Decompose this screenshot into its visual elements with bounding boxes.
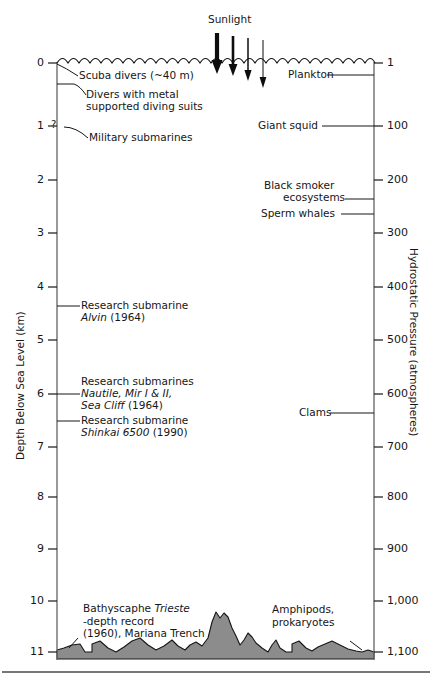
- right-tick-900: 900: [387, 542, 408, 555]
- right-axis-title: Hydrostatic Pressure (atmospheres): [408, 248, 420, 436]
- metal-suit-divers-label-line2: supported diving suits: [86, 101, 203, 113]
- sperm-whales-label: Sperm whales: [261, 208, 335, 220]
- giant-squid-label: Giant squid: [258, 120, 318, 132]
- left-tick-11: 11: [18, 645, 44, 658]
- nautile-label-line3: Sea Cliff (1964): [81, 400, 163, 412]
- sea-cliff-year: (1964): [125, 399, 163, 411]
- metal-suit-divers-label-line1: Divers with metal: [86, 89, 179, 101]
- trieste-label-line3: (1960), Mariana Trench: [83, 628, 205, 640]
- left-tick-2: 2: [22, 173, 44, 186]
- trieste-label-line2: -depth record: [83, 616, 154, 628]
- left-tick-1: 1: [22, 119, 44, 132]
- nautile-label-line2: Nautile, Mir I & II,: [81, 388, 172, 400]
- alvin-name: Alvin: [81, 311, 107, 323]
- leader-scuba-divers: [57, 64, 78, 76]
- right-tick-200: 200: [387, 173, 408, 186]
- left-tick-9: 9: [22, 542, 44, 555]
- black-smoker-label-line1: Black smoker: [264, 180, 334, 192]
- sunlight-label: Sunlight: [208, 14, 251, 26]
- trieste-prefix: Bathyscaphe: [83, 602, 154, 614]
- leader-metal-suit-divers: [57, 84, 86, 95]
- left-axis-ticks: [48, 63, 57, 652]
- shinkai-label-line1: Research submarine: [81, 415, 188, 427]
- left-tick-0: 0: [22, 56, 44, 69]
- alvin-year: (1964): [107, 311, 145, 323]
- shinkai-label-line2: Shinkai 6500 (1990): [81, 427, 188, 439]
- right-tick-600: 600: [387, 387, 408, 400]
- black-smoker-label-line2: ecosystems: [283, 192, 345, 204]
- right-tick-1: 1: [387, 56, 394, 69]
- shinkai-year: (1990): [149, 426, 187, 438]
- right-tick-100: 100: [387, 119, 408, 132]
- left-tick-4: 4: [22, 280, 44, 293]
- trieste-name: Trieste: [154, 602, 189, 614]
- right-tick-700: 700: [387, 440, 408, 453]
- scuba-divers-label: Scuba divers (~40 m): [79, 70, 194, 82]
- right-axis-ticks: [374, 63, 383, 652]
- amphipods-label-line1: Amphipods,: [272, 604, 334, 616]
- military-submarines-uncertainty-marker: ?: [51, 119, 56, 131]
- right-tick-1000: 1,000: [387, 594, 419, 607]
- right-tick-500: 500: [387, 333, 408, 346]
- leader-military-submarines: [64, 127, 88, 138]
- sunlight-arrows: [212, 33, 267, 88]
- amphipod-seafloor-notch: [350, 641, 362, 650]
- right-tick-400: 400: [387, 280, 408, 293]
- left-tick-3: 3: [22, 226, 44, 239]
- alvin-label-line1: Research submarine: [81, 300, 188, 312]
- military-submarines-label: Military submarines: [89, 132, 193, 144]
- clams-label: Clams: [299, 407, 331, 419]
- amphipods-label-line2: prokaryotes: [272, 617, 335, 629]
- shinkai-name: Shinkai 6500: [81, 426, 149, 438]
- left-tick-8: 8: [22, 490, 44, 503]
- right-tick-800: 800: [387, 490, 408, 503]
- diagram-canvas: [0, 0, 432, 683]
- plankton-label: Plankton: [288, 69, 334, 81]
- right-tick-300: 300: [387, 226, 408, 239]
- right-tick-1100: 1,100: [387, 645, 419, 658]
- sea-cliff-name: Sea Cliff: [81, 399, 125, 411]
- nautile-label-line1: Research submarines: [81, 376, 194, 388]
- left-tick-10: 10: [18, 594, 44, 607]
- trieste-label-line1: Bathyscaphe Trieste: [83, 603, 190, 615]
- ocean-depth-pressure-figure: 0 1 2 3 4 5 6 7 8 9 10 11 1 100 200 300 …: [0, 0, 432, 683]
- alvin-label-line2: Alvin (1964): [81, 312, 145, 324]
- left-axis-title: Depth Below Sea Level (km): [14, 311, 26, 460]
